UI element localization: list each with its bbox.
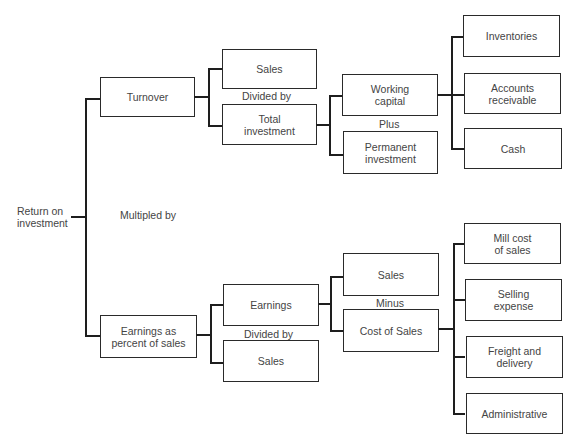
roi-tree-diagram: Return on investment Multipled by Turnov… [0,0,584,444]
node-administrative: Administrative [466,393,563,434]
connector-investment-vertical [329,95,331,155]
connector-root-vertical [85,98,87,336]
node-permanent-investment: Permanent investment [343,131,438,174]
connector-to-permanent-investment [329,154,343,156]
connector-turnover-vertical [208,68,210,126]
node-working-capital: Working capital [342,74,438,116]
connector-earnings-pct-vertical [210,304,212,363]
connector-to-working-capital [329,95,343,97]
node-accounts-receivable: Accounts receivable [464,73,561,114]
connector-to-sales-top [208,68,223,70]
connector-cost-vertical [453,243,455,414]
connector-to-turnover [85,98,101,100]
connector-to-cost-of-sales [330,330,344,332]
node-total-investment: Total investment [222,104,317,145]
connector-to-cash [451,148,464,150]
node-selling-expense: Selling expense [465,279,562,321]
node-earnings: Earnings [223,284,319,326]
connector-to-total-investment [208,125,223,127]
connector-earnings-vertical [330,276,332,331]
root-return-on-investment: Return on investment [17,205,68,229]
connector-to-administrative [453,413,465,415]
operator-multiplied-by: Multipled by [120,209,176,221]
node-cash: Cash [464,128,562,169]
connector-to-sales-minus [330,276,344,278]
connector-working-capital-out [437,94,452,96]
operator-minus: Minus [376,297,404,309]
node-freight-and-delivery: Freight and delivery [466,336,563,378]
connector-to-freight [453,356,465,358]
node-inventories: Inventories [463,15,560,57]
node-cost-of-sales: Cost of Sales [343,309,439,352]
connector-to-selling-expense [453,299,465,301]
connector-to-sales-bottom [210,362,224,364]
operator-divided-by-top: Divided by [242,90,291,102]
connector-working-capital-vertical [451,36,453,149]
connector-to-earnings-pct [85,335,101,337]
node-sales-minus: Sales [343,253,439,296]
node-earnings-pct-sales: Earnings as percent of sales [100,315,197,358]
connector-earnings-pct-out [196,334,211,336]
node-sales-top: Sales [222,49,317,89]
operator-divided-by-bottom: Divided by [244,328,293,340]
operator-plus: Plus [379,118,399,130]
node-sales-bottom: Sales [223,340,319,382]
connector-to-accounts-receivable [451,94,464,96]
node-turnover: Turnover [100,77,195,117]
connector-cost-of-sales-out [438,328,454,330]
connector-to-earnings [210,304,224,306]
connector-turnover-out [194,96,209,98]
node-mill-cost-of-sales: Mill cost of sales [464,223,561,264]
